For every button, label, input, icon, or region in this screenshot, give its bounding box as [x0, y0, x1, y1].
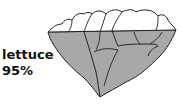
- lettuce-icon: [0, 0, 182, 110]
- lettuce-fill: [48, 30, 176, 97]
